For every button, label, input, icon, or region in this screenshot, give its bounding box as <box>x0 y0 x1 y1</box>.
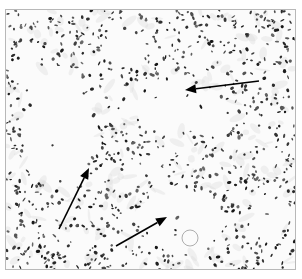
arrow-icon <box>59 168 89 229</box>
annotation-arrows <box>6 10 296 270</box>
figure-caption <box>6 271 296 279</box>
arrow-icon <box>185 81 259 93</box>
arrow-icon <box>116 217 167 246</box>
micrograph-frame <box>5 9 296 270</box>
